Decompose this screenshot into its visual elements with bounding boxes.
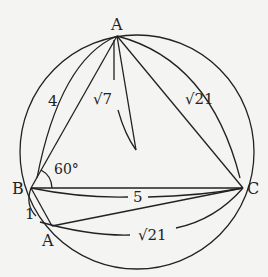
label-BC-length: 5 <box>133 188 143 206</box>
segment-A2C <box>52 188 243 226</box>
label-A-top: A <box>110 15 123 34</box>
label-AC-length: √21 <box>185 90 214 108</box>
label-BA2-length: 1 <box>25 205 35 223</box>
label-AD-length: √7 <box>93 90 112 108</box>
label-C: C <box>247 179 259 198</box>
segment-AC <box>117 36 243 188</box>
label-angle-B: 60° <box>54 161 79 177</box>
label-AB-length: 4 <box>48 92 58 110</box>
angle-mark-B <box>41 170 52 188</box>
geometry-diagram: A B C A 4 √7 √21 5 1 √21 60° <box>0 0 268 277</box>
label-A2C-length: √21 <box>138 226 167 244</box>
label-B: B <box>12 179 24 198</box>
label-A-bottom: A <box>41 231 54 250</box>
circumcircle <box>20 35 254 269</box>
